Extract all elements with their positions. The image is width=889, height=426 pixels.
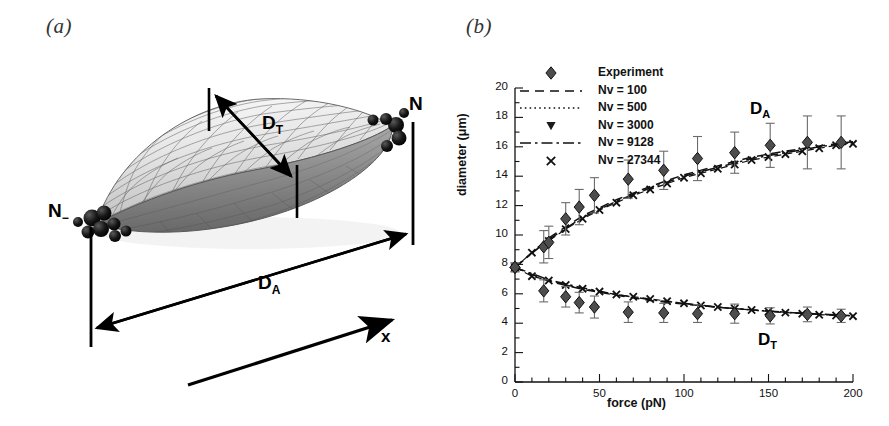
legend-label-nv-100: Nv = 100 bbox=[598, 83, 647, 97]
series-experiment-dt bbox=[510, 261, 846, 324]
data-marker-x bbox=[547, 156, 555, 164]
data-marker-diamond bbox=[765, 139, 775, 151]
curve-annotation-da-sub: A bbox=[762, 108, 770, 120]
node-label-n-minus-text: N bbox=[48, 200, 62, 221]
node-label-n-plus-text: N bbox=[409, 93, 423, 114]
y-tick-label: 18 bbox=[475, 109, 508, 121]
legend-label-nv-500: Nv = 500 bbox=[598, 100, 647, 114]
data-marker-diamond bbox=[623, 173, 633, 185]
data-marker-diamond bbox=[730, 146, 740, 158]
data-marker-diamond bbox=[836, 310, 846, 322]
data-marker-diamond bbox=[692, 307, 702, 319]
da-label-text: D bbox=[258, 272, 272, 293]
legend-sample-experiment bbox=[518, 65, 584, 81]
curve-annotation-da: DA bbox=[750, 99, 770, 120]
y-tick-label: 2 bbox=[475, 345, 508, 357]
panel-b bbox=[440, 0, 889, 426]
y-axis-title: diameter (μm) bbox=[455, 113, 469, 196]
y-tick-label: 10 bbox=[475, 227, 508, 239]
legend-sample-nv-9128 bbox=[518, 135, 584, 151]
data-marker-diamond bbox=[692, 152, 702, 164]
x-tick-label: 100 bbox=[664, 387, 704, 399]
da-label-sub: A bbox=[272, 283, 281, 297]
data-marker-diamond bbox=[561, 213, 571, 225]
panel-a-label: (a) bbox=[46, 14, 72, 39]
curve-annotation-da-text: D bbox=[750, 99, 762, 118]
legend-label-nv-3000: Nv = 3000 bbox=[598, 118, 654, 132]
data-marker-diamond bbox=[546, 67, 556, 79]
x-tick-label: 50 bbox=[580, 387, 620, 399]
data-marker-diamond bbox=[802, 136, 812, 148]
data-marker-diamond bbox=[802, 308, 812, 320]
data-marker-x bbox=[680, 174, 687, 181]
panel-a: (a) N N− DT DA x bbox=[0, 0, 440, 426]
y-tick-label: 8 bbox=[475, 256, 508, 268]
node-label-n-plus: N bbox=[409, 93, 423, 115]
y-tick-label: 4 bbox=[475, 315, 508, 327]
node-label-n-minus-sub: − bbox=[62, 211, 69, 225]
x-axis-arrow bbox=[188, 320, 392, 385]
y-tick-label: 12 bbox=[475, 198, 508, 210]
data-marker-diamond bbox=[589, 189, 599, 201]
curve-annotation-dt-sub: T bbox=[770, 339, 777, 351]
data-marker-triangle-down bbox=[546, 122, 555, 130]
curve-annotation-dt-text: D bbox=[758, 330, 770, 349]
dt-label-sub: T bbox=[276, 123, 283, 137]
legend-sample-nv-27344 bbox=[518, 153, 584, 169]
diameter-vs-force-plot bbox=[440, 0, 889, 426]
data-marker-diamond bbox=[574, 296, 584, 308]
curve-annotation-dt: DT bbox=[758, 330, 777, 351]
data-marker-diamond bbox=[589, 301, 599, 313]
legend-sample-nv-3000 bbox=[518, 118, 584, 134]
x-tick-label: 200 bbox=[833, 387, 873, 399]
legend-label-nv-27344: Nv = 27344 bbox=[598, 153, 660, 167]
legend-sample-nv-500 bbox=[518, 100, 584, 116]
y-tick-label: 16 bbox=[475, 139, 508, 151]
data-marker-diamond bbox=[539, 285, 549, 297]
transverse-diameter-label: DT bbox=[262, 112, 283, 137]
data-marker-diamond bbox=[561, 291, 571, 303]
node-label-n-minus: N− bbox=[48, 200, 69, 225]
figure-root: (a) N N− DT DA x (b) force (pN) diameter… bbox=[0, 0, 889, 426]
y-tick-label: 20 bbox=[475, 80, 508, 92]
data-marker-x bbox=[849, 313, 856, 320]
x-tick-label: 150 bbox=[749, 387, 789, 399]
legend-label-nv-9128: Nv = 9128 bbox=[598, 135, 654, 149]
y-tick-label: 6 bbox=[475, 286, 508, 298]
legend-sample-nv-100 bbox=[518, 83, 584, 99]
data-marker-diamond bbox=[574, 201, 584, 213]
y-tick-label: 0 bbox=[475, 374, 508, 386]
x-direction-label: x bbox=[381, 327, 390, 347]
data-marker-x bbox=[528, 249, 535, 256]
legend-label-experiment: Experiment bbox=[598, 65, 663, 79]
panel-b-label: (b) bbox=[466, 14, 492, 39]
y-tick-label: 14 bbox=[475, 168, 508, 180]
axial-diameter-label: DA bbox=[258, 272, 280, 297]
dt-label-text: D bbox=[262, 112, 276, 133]
data-marker-diamond bbox=[659, 307, 669, 319]
data-marker-diamond bbox=[623, 306, 633, 318]
x-tick-label: 0 bbox=[495, 387, 535, 399]
